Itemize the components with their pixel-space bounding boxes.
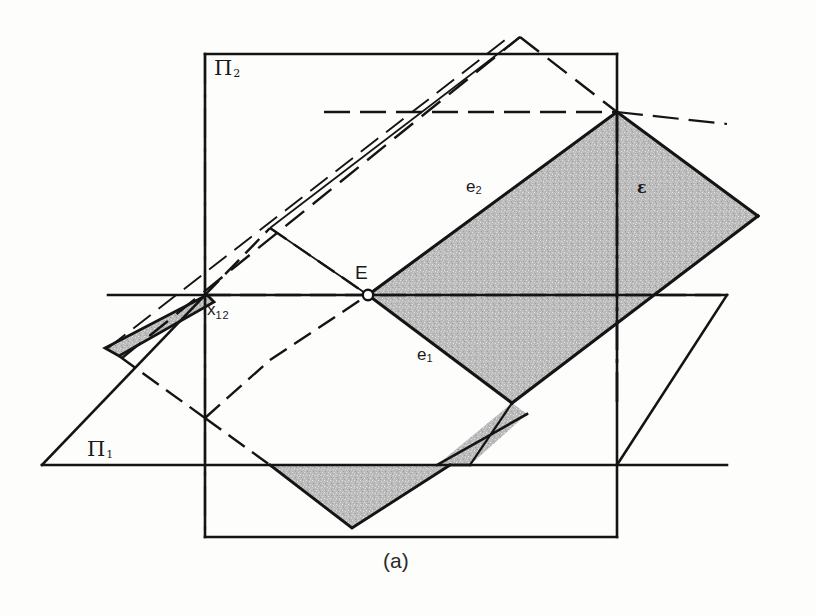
label-trace-e2: e2 xyxy=(466,177,482,197)
trace-e1-offset-edge xyxy=(437,414,527,465)
label-pi2-base: Π xyxy=(214,56,232,80)
pi1-right-oblique-edge xyxy=(617,295,727,465)
trace-lower-dashed-down xyxy=(205,418,270,465)
label-x12-base: x xyxy=(207,300,216,319)
label-e1-sub: 1 xyxy=(426,352,432,364)
label-trace-e1: e1 xyxy=(417,345,433,365)
figure-canvas: Π2 Π1 x12 E e2 e1 ε (a) xyxy=(0,0,816,616)
label-e2-sub: 2 xyxy=(475,184,481,196)
label-plane-pi2: Π2 xyxy=(214,56,240,80)
epsilon-lower-right-wedge xyxy=(437,403,527,465)
label-pi1-sub: 1 xyxy=(105,448,113,461)
trace-upper-dashed-a xyxy=(205,228,270,295)
label-axis-x12: x12 xyxy=(207,300,230,321)
trace-lower-dashed-b xyxy=(270,295,368,360)
point-E-marker xyxy=(363,290,373,300)
geometry-diagram xyxy=(0,0,816,616)
label-pi1-base: Π xyxy=(87,437,105,461)
figure-caption: (a) xyxy=(383,549,409,573)
thin-edge-upper xyxy=(270,228,368,295)
trace-lower-dashed-a xyxy=(205,360,270,418)
label-plane-pi1: Π1 xyxy=(87,437,113,461)
label-x12-sub: 12 xyxy=(216,309,230,321)
trace-lower-dashed-left xyxy=(119,356,205,418)
label-pi2-sub: 2 xyxy=(232,67,240,80)
label-plane-epsilon: ε xyxy=(637,178,647,197)
epsilon-top-level-line-right xyxy=(617,112,727,124)
rotated-plane-edge-upper-right xyxy=(520,37,617,112)
epsilon-below-ground-triangle xyxy=(270,465,450,528)
thin-edge-to-peak xyxy=(270,37,520,228)
label-point-E: E xyxy=(355,262,368,284)
